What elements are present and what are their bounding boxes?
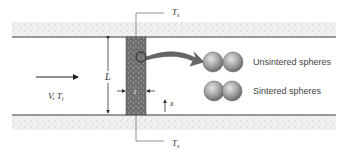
length-label: L: [104, 71, 111, 82]
unsintered-sphere-1: [203, 52, 223, 72]
bottom-wall: [12, 116, 336, 130]
unsintered-sphere-2: [223, 52, 243, 72]
sintered-label: Sintered spheres: [253, 86, 322, 96]
unsintered-label: Unsintered spheres: [253, 57, 332, 67]
sintered-sphere-2: [222, 81, 242, 101]
x-axis-label: x: [169, 99, 174, 108]
porous-plug: [126, 37, 146, 115]
zoom-arrow: [146, 52, 204, 66]
top-temperature-label: Ts: [172, 7, 180, 18]
sintered-sphere-1: [204, 81, 224, 101]
top-wall: [12, 22, 162, 36]
bottom-temperature-label: Ts: [172, 138, 180, 149]
inflow-label: V, Ti: [48, 91, 64, 102]
top-wall-right: [162, 22, 336, 36]
porous-plug-diagram: Ts Ts L t x V, Ti Unsintered spheres Sin…: [0, 0, 350, 160]
